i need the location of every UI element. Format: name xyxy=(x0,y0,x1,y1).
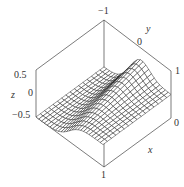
z-tick-pos: 0.5 xyxy=(14,70,27,80)
y-tick-0: 0 xyxy=(137,37,142,47)
x-tick-0: 0 xyxy=(174,118,179,128)
z-axis-label: z xyxy=(11,90,15,100)
z-tick-neg: −0.5 xyxy=(12,110,30,120)
y-axis-label: y xyxy=(146,24,150,34)
y-tick-1: 1 xyxy=(175,66,180,76)
z-tick-0: 0 xyxy=(28,88,33,98)
y-tick-neg1: −1 xyxy=(98,6,109,16)
x-tick-1: 1 xyxy=(101,170,106,180)
x-axis-label: x xyxy=(148,145,152,155)
